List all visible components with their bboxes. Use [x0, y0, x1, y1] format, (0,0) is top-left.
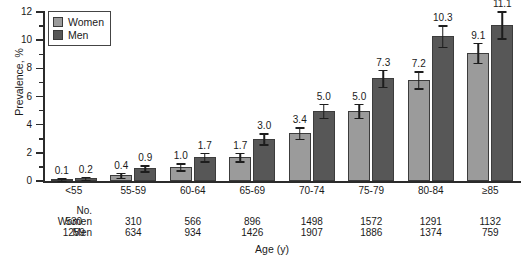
legend: Women Men	[48, 11, 111, 46]
y-tick-label: 0	[6, 176, 32, 186]
bar-men[interactable]: 10.3	[432, 12, 454, 181]
table-cell: 1291	[401, 216, 461, 227]
table-cell: 1426	[222, 227, 282, 238]
y-tick-major	[36, 11, 44, 13]
table-row: Men12596349341426190718861374759	[0, 227, 531, 238]
error-bar-cap	[57, 178, 66, 180]
x-category-label: 55-59	[103, 185, 163, 196]
table-cell: 934	[163, 227, 223, 238]
legend-swatch-women	[53, 17, 63, 27]
x-axis-title: Age (y)	[34, 243, 510, 255]
error-bar	[299, 127, 301, 138]
bar-group: 5.07.3	[342, 12, 402, 181]
figure: Prevalence, % 024681012 0.10.20.40.91.01…	[0, 0, 531, 267]
error-bar	[323, 104, 325, 118]
bar-rect[interactable]	[372, 78, 394, 181]
bar-women[interactable]: 1.7	[229, 12, 251, 181]
error-bar	[478, 43, 480, 63]
y-tick-label: 8	[6, 63, 32, 73]
counts-table: No.Women5303105668961498157212911132Men1…	[0, 205, 531, 238]
bar-value-label: 1.7	[233, 141, 247, 151]
error-bar-cap	[295, 127, 304, 129]
error-bar-cap	[57, 181, 66, 183]
table-cell: 530	[44, 216, 104, 227]
bar-men[interactable]: 7.3	[372, 12, 394, 181]
error-bar	[502, 11, 504, 38]
bar-rect[interactable]	[432, 36, 454, 181]
error-bar-cap	[176, 170, 185, 172]
table-cell: 1907	[282, 227, 342, 238]
bar-value-label: 0.2	[79, 165, 93, 175]
error-bar	[359, 104, 361, 118]
bar-women[interactable]: 9.1	[467, 12, 489, 181]
error-bar-cap	[474, 63, 483, 65]
bar-rect[interactable]	[491, 25, 513, 181]
error-bar	[418, 71, 420, 88]
table-header-row: No.	[0, 205, 531, 216]
table-cell: 1259	[44, 227, 104, 238]
table-row: Women5303105668961498157212911132	[0, 216, 531, 227]
legend-label-men: Men	[68, 30, 88, 41]
bar-group: 9.111.1	[461, 12, 521, 181]
y-axis-title: Prevalence, %	[13, 37, 25, 127]
error-bar-cap	[260, 133, 269, 135]
plot-area: 0.10.20.40.91.01.71.73.03.45.05.07.37.21…	[44, 12, 520, 181]
bar-men[interactable]: 0.9	[134, 12, 156, 181]
error-bar-cap	[414, 88, 423, 90]
x-axis-line	[43, 181, 521, 183]
error-bar	[442, 25, 444, 46]
bar-women[interactable]: 7.2	[408, 12, 430, 181]
bar-women[interactable]: 0.4	[110, 12, 132, 181]
error-bar	[383, 70, 385, 87]
y-tick-major	[36, 152, 44, 154]
bar-men[interactable]: 5.0	[313, 12, 335, 181]
error-bar-cap	[379, 70, 388, 72]
table-header-label: No.	[30, 205, 92, 216]
error-bar-cap	[176, 163, 185, 165]
bar-women[interactable]: 3.4	[289, 12, 311, 181]
table-cell: 634	[103, 227, 163, 238]
bar-group: 3.45.0	[282, 12, 342, 181]
bar-men[interactable]: 3.0	[253, 12, 275, 181]
legend-item-men: Men	[53, 29, 104, 41]
error-bar-cap	[141, 165, 150, 167]
error-bar-cap	[474, 43, 483, 45]
y-tick-major	[36, 39, 44, 41]
legend-swatch-men	[53, 30, 63, 40]
table-cell: 759	[460, 227, 520, 238]
bar-value-label: 7.2	[412, 59, 426, 69]
bar-value-label: 3.4	[293, 115, 307, 125]
y-tick-label: 6	[6, 92, 32, 102]
bar-value-label: 1.0	[174, 151, 188, 161]
bar-rect[interactable]	[313, 111, 335, 181]
bar-men[interactable]: 11.1	[491, 12, 513, 181]
bar-value-label: 5.0	[317, 92, 331, 102]
bar-value-label: 10.3	[433, 13, 452, 23]
x-category-label: 80-84	[401, 185, 461, 196]
bar-rect[interactable]	[348, 111, 370, 181]
y-tick-label: 10	[6, 35, 32, 45]
table-cell: 310	[103, 216, 163, 227]
table-cell: 1132	[460, 216, 520, 227]
y-tick-label: 12	[6, 7, 32, 17]
bar-rect[interactable]	[408, 80, 430, 181]
bar-value-label: 11.1	[493, 0, 512, 9]
x-category-label: 75-79	[341, 185, 401, 196]
legend-item-women: Women	[53, 16, 104, 28]
y-tick-label: 4	[6, 120, 32, 130]
bar-value-label: 7.3	[376, 58, 390, 68]
y-tick-label: 2	[6, 148, 32, 158]
error-bar-cap	[295, 139, 304, 141]
error-bar-cap	[438, 25, 447, 27]
x-category-label: <55	[44, 185, 104, 196]
x-category-label: 70-74	[282, 185, 342, 196]
bar-women[interactable]: 5.0	[348, 12, 370, 181]
error-bar-cap	[200, 153, 209, 155]
bar-women[interactable]: 1.0	[170, 12, 192, 181]
bar-rect[interactable]	[289, 133, 311, 181]
error-bar-cap	[141, 171, 150, 173]
bar-rect[interactable]	[467, 53, 489, 181]
bar-value-label: 9.1	[471, 31, 485, 41]
error-bar-cap	[200, 161, 209, 163]
bar-men[interactable]: 1.7	[194, 12, 216, 181]
